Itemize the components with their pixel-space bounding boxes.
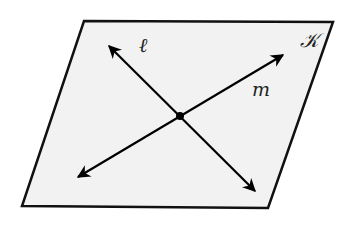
line-l-label: ℓ (139, 33, 148, 57)
plane-diagram: ℓ m 𝒦 (0, 0, 360, 228)
line-m-label: m (252, 78, 270, 100)
intersection-point (176, 112, 184, 120)
